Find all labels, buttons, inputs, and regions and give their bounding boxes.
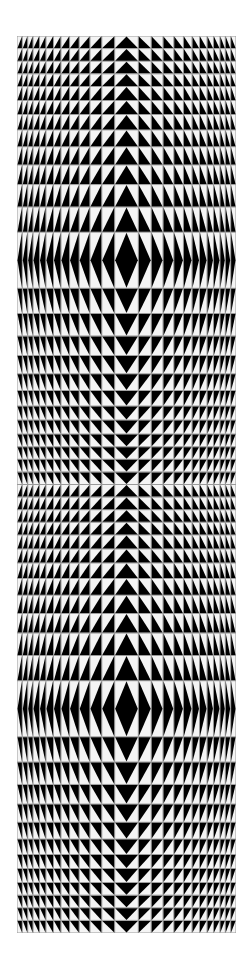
grid-cell <box>174 535 183 548</box>
grid-cell <box>231 908 235 920</box>
grid-cell <box>164 472 174 484</box>
grid-cell <box>214 407 219 420</box>
grid-cell <box>226 805 230 822</box>
grid-cell <box>28 614 32 633</box>
op-art-artwork: Op-art triangle grid <box>17 36 236 933</box>
grid-cell <box>34 447 39 459</box>
grid-cell <box>18 510 22 522</box>
grid-cell <box>80 460 90 472</box>
grid-cell <box>192 498 199 510</box>
grid-cell <box>208 681 213 736</box>
grid-cell <box>231 130 235 146</box>
grid-cell <box>231 855 235 868</box>
grid-cell <box>184 763 192 784</box>
grid-cell <box>28 656 32 680</box>
grid-cell <box>220 498 224 510</box>
grid-cell <box>70 579 79 595</box>
grid-cell <box>164 49 174 61</box>
grid-cell <box>70 49 79 61</box>
grid-cell <box>115 563 138 577</box>
grid-cell <box>115 289 138 313</box>
grid-cell <box>184 614 192 633</box>
grid-cell <box>23 472 27 484</box>
grid-cell <box>70 855 79 868</box>
grid-cell <box>152 908 163 920</box>
grid-cell <box>214 130 219 146</box>
grid-cell <box>102 855 114 868</box>
grid-cell <box>184 147 192 164</box>
grid-cell <box>62 535 70 548</box>
grid-cell <box>54 147 61 164</box>
grid-cell <box>80 535 90 548</box>
grid-cell <box>62 49 70 61</box>
grid-cell <box>28 579 32 595</box>
grid-cell <box>54 374 61 390</box>
grid-cell <box>70 314 79 335</box>
grid-cell <box>115 115 138 129</box>
grid-cell <box>34 785 39 804</box>
grid-cell <box>34 407 39 420</box>
grid-cell <box>184 62 192 74</box>
grid-cell <box>62 896 70 908</box>
grid-cell <box>220 485 224 497</box>
grid-cell <box>231 115 235 129</box>
grid-cell <box>192 656 199 680</box>
grid-cell <box>115 185 138 206</box>
grid-cell <box>80 74 90 86</box>
grid-cell <box>174 908 183 920</box>
grid-cell <box>208 74 213 86</box>
grid-cell <box>115 523 138 535</box>
grid-cell <box>192 165 199 184</box>
grid-cell <box>91 74 102 86</box>
grid-cell <box>200 656 207 680</box>
grid-cell <box>62 314 70 335</box>
grid-cell <box>46 485 53 497</box>
grid-cell <box>70 207 79 231</box>
grid-cell <box>164 921 174 933</box>
grid-cell <box>231 563 235 577</box>
grid-cell <box>62 579 70 595</box>
grid-cell <box>139 763 151 784</box>
grid-cell <box>91 805 102 822</box>
grid-cell <box>102 498 114 510</box>
grid-cell <box>139 74 151 86</box>
grid-cell <box>152 785 163 804</box>
grid-cell <box>192 840 199 854</box>
grid-cell <box>184 87 192 100</box>
grid-cell <box>164 185 174 206</box>
grid-cell <box>70 896 79 908</box>
grid-cell <box>70 165 79 184</box>
grid-cell <box>192 596 199 613</box>
grid-cell <box>226 563 230 577</box>
grid-cell <box>28 289 32 313</box>
grid-cell <box>54 336 61 355</box>
grid-cell <box>152 883 163 895</box>
grid-cell <box>152 805 163 822</box>
grid-cell <box>231 883 235 895</box>
grid-cell <box>214 510 219 522</box>
grid-cell <box>184 921 192 933</box>
grid-cell <box>208 579 213 595</box>
grid-cell <box>231 535 235 548</box>
grid-cell <box>34 115 39 129</box>
grid-cell <box>164 447 174 459</box>
grid-cell <box>192 634 199 655</box>
grid-cell <box>46 510 53 522</box>
grid-cell <box>102 823 114 839</box>
grid-cell <box>18 460 22 472</box>
grid-cell <box>46 656 53 680</box>
grid-cell <box>40 472 45 484</box>
grid-cell <box>152 147 163 164</box>
grid-cell <box>62 165 70 184</box>
grid-cell <box>115 374 138 390</box>
grid-cell <box>91 549 102 562</box>
grid-cell <box>70 101 79 114</box>
grid-cell <box>62 656 70 680</box>
grid-cell <box>220 207 224 231</box>
grid-cell <box>226 130 230 146</box>
grid-cell <box>208 656 213 680</box>
grid-cell <box>62 374 70 390</box>
grid-cell <box>164 510 174 522</box>
grid-cell <box>62 634 70 655</box>
grid-cell <box>139 101 151 114</box>
